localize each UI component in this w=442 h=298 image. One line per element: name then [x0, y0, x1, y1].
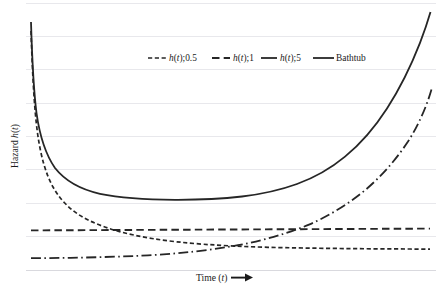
legend-label-h-5: h(t);5	[280, 53, 301, 64]
legend-label-h-0p5: h(t);0.5	[169, 53, 197, 64]
y-axis-label: Hazard h(t)	[9, 124, 21, 168]
legend-label-bathtub: Bathtub	[336, 53, 366, 63]
chart-canvas: h(t);0.5 h(t);1 h(t);5 Bathtub Hazard h(…	[0, 0, 442, 298]
y-axis-label-group: Hazard h(t)	[9, 124, 21, 168]
legend-label-h-1: h(t);1	[233, 53, 254, 64]
figure-background	[0, 0, 442, 298]
x-axis-label: Time (t)	[196, 272, 227, 284]
hazard-function-figure: h(t);0.5 h(t);1 h(t);5 Bathtub Hazard h(…	[0, 0, 442, 298]
